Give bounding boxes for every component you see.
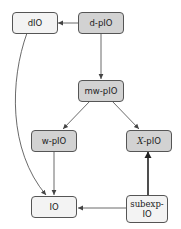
- node-d-pio-label: d-pIO: [89, 18, 112, 28]
- node-w-pio: w-pIO: [31, 130, 77, 152]
- edge-mwpio-wpio: [63, 101, 90, 129]
- node-dio-label: dIO: [28, 18, 43, 28]
- node-d-pio: d-pIO: [78, 12, 124, 34]
- edge-mwpio-xpio: [112, 101, 139, 129]
- edge-dio-io: [15, 33, 46, 195]
- node-dio: dIO: [12, 12, 58, 34]
- node-io-label: IO: [49, 202, 58, 212]
- node-subexp-io: subexp- IO: [126, 195, 168, 223]
- node-x-pio-label: -pIO: [143, 136, 161, 146]
- node-mw-pio-label: mw-pIO: [85, 86, 118, 96]
- node-subexp-io-line2: IO: [142, 209, 151, 219]
- node-x-pio: X-pIO: [126, 130, 172, 152]
- node-io: IO: [31, 196, 77, 218]
- node-w-pio-label: w-pIO: [42, 136, 67, 146]
- node-subexp-io-line1: subexp-: [130, 199, 163, 209]
- node-mw-pio: mw-pIO: [78, 80, 124, 102]
